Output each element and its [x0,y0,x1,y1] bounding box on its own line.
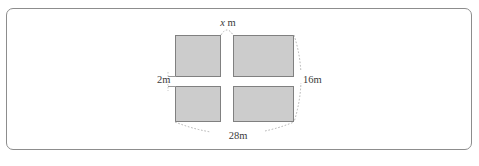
right-arc-16m [294,35,301,122]
label-bottom-28m: 28m [213,131,263,142]
label-right-16m: 16m [303,75,322,86]
top-arc-x [221,30,233,35]
label-top-x: x m [206,18,250,29]
quadrant-bottom-right [234,87,294,122]
diagram-canvas: x m 2m 16m 28m [0,0,479,166]
quadrant-top-right [234,36,294,77]
quadrant-top-left [176,36,221,77]
label-top-unit: m [228,17,236,28]
quadrant-bottom-left [176,87,221,122]
quadrant-rectangles [176,36,294,122]
label-left-2m: 2m [157,75,170,86]
